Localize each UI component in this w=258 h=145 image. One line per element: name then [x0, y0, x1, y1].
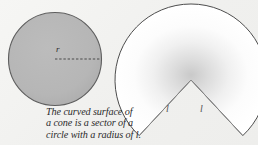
caption-line-3: circle with a radius of l.: [46, 129, 154, 140]
radius-label-r: r: [56, 44, 60, 54]
figure-caption: The curved surface of a cone is a sector…: [46, 106, 154, 140]
caption-line-1: The curved surface of: [46, 106, 154, 117]
slant-label-l-left: l: [166, 103, 169, 114]
circle-group: [9, 13, 102, 106]
cone-curved-surface-diagram: r l l The curved surface of a cone is a …: [0, 0, 258, 145]
slant-label-l-right: l: [200, 103, 203, 114]
caption-line-2: a cone is a sector of a: [46, 117, 154, 128]
